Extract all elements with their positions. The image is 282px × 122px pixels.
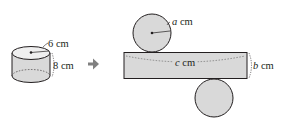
net-length-label: c cm bbox=[173, 58, 197, 69]
radius-variable: a bbox=[172, 16, 177, 27]
length-unit: cm bbox=[182, 57, 195, 68]
cylinder-net-diagram bbox=[0, 0, 282, 122]
width-unit: cm bbox=[261, 60, 274, 71]
length-variable: c bbox=[175, 57, 180, 68]
net-width-label: b cm bbox=[253, 61, 274, 72]
arrow-right-icon bbox=[88, 59, 99, 70]
net-radius-label: a cm bbox=[172, 17, 193, 28]
radius-unit: cm bbox=[180, 16, 193, 27]
radius-label: 6 cm bbox=[48, 39, 69, 50]
width-variable: b bbox=[253, 60, 258, 71]
height-label: 8 cm bbox=[53, 61, 74, 72]
